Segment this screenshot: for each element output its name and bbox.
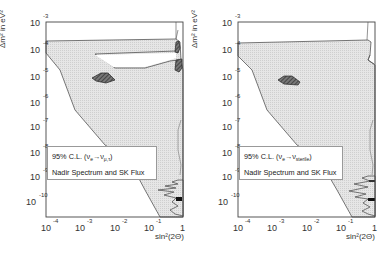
x-axis-label: sin²(2Θ) xyxy=(155,232,184,241)
contour-line-3 xyxy=(176,22,178,39)
y-tick-label: 10-10 xyxy=(26,197,36,207)
left-plot-panel: Δm² in eV² 10-3 10-4 10-5 10-6 10-7 10-8… xyxy=(0,0,196,254)
x-axis-label: sin²(2Θ) xyxy=(346,232,375,241)
x-tick-label: 10-2 xyxy=(110,223,120,233)
vacuum-dark-band xyxy=(369,180,375,182)
x-tick-label: 10-4 xyxy=(41,223,51,233)
y-tick-label: 10-7 xyxy=(30,122,40,132)
vacuum-dark-band xyxy=(176,197,182,201)
x-tick-label: 10-4 xyxy=(233,223,243,233)
y-tick-label: 10-9 xyxy=(222,172,232,182)
legend-line-1: 95% C.L. (νe→νsterile) xyxy=(244,150,342,166)
y-axis-label: Δm² in eV² xyxy=(0,10,7,48)
y-tick-label: 10-6 xyxy=(30,98,40,108)
y-tick-label: 10-10 xyxy=(218,197,228,207)
legend-box: 95% C.L. (νe→νμ,τ) Nadir Spectrum and SK… xyxy=(47,146,157,180)
legend-box: 95% C.L. (νe→νsterile) Nadir Spectrum an… xyxy=(239,146,343,180)
y-tick-label: 10-3 xyxy=(222,18,232,28)
y-tick-label: 10-5 xyxy=(222,72,232,82)
x-tick-label: 10-1 xyxy=(144,223,154,233)
x-tick-label: 10-3 xyxy=(75,223,85,233)
y-tick-label: 10-4 xyxy=(30,45,40,55)
y-tick-label: 10-6 xyxy=(222,98,232,108)
y-tick-label: 10-4 xyxy=(222,45,232,55)
x-tick-label: 10-3 xyxy=(267,223,277,233)
x-tick-label: 10-1 xyxy=(336,223,346,233)
legend-line-2: Nadir Spectrum and SK Flux xyxy=(244,166,342,180)
vacuum-dark-band xyxy=(368,198,375,201)
contour-line-3 xyxy=(367,22,368,40)
legend-line-2: Nadir Spectrum and SK Flux xyxy=(52,166,156,180)
y-axis-label: Δm² in eV² xyxy=(190,10,199,48)
y-tick-label: 10-8 xyxy=(30,148,40,158)
y-tick-label: 10-9 xyxy=(30,172,40,182)
legend-line-1: 95% C.L. (νe→νμ,τ) xyxy=(52,150,156,166)
right-plot-panel: Δm² in eV² 10-3 10-4 10-5 10-6 10-7 10-8… xyxy=(192,0,388,254)
y-tick-label: 10-7 xyxy=(222,122,232,132)
y-tick-label: 10-3 xyxy=(30,18,40,28)
x-tick-label: 10-2 xyxy=(302,223,312,233)
y-tick-label: 10-8 xyxy=(222,148,232,158)
y-tick-label: 10-5 xyxy=(30,72,40,82)
